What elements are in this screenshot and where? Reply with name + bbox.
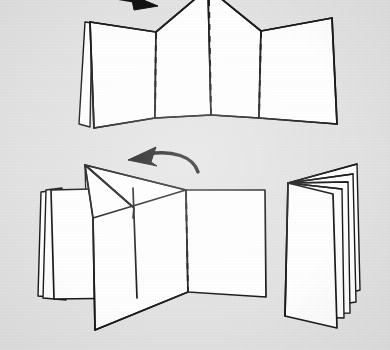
diagram-canvas xyxy=(0,0,390,350)
accordion-panel-1 xyxy=(90,22,156,128)
figure-collapsing-accordion xyxy=(38,165,266,330)
fold-direction-arrow-middle xyxy=(128,147,198,172)
figure-finished-book xyxy=(285,164,360,328)
arrow-top-head xyxy=(131,0,158,10)
accordion-panel-3 xyxy=(208,0,261,118)
accordion-panel-4 xyxy=(259,18,337,124)
right-large-panel xyxy=(186,190,266,297)
book-front-cover xyxy=(285,183,337,328)
fold-direction-arrow-top xyxy=(92,0,158,10)
arrow-middle-shaft xyxy=(148,153,198,172)
instruction-diagram xyxy=(0,0,390,350)
figure-accordion-strip xyxy=(79,0,337,128)
accordion-panel-2 xyxy=(155,0,211,118)
arrow-middle-head xyxy=(128,147,157,166)
